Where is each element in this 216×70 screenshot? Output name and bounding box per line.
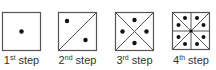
step-word: step <box>132 54 153 66</box>
step-4-label: 4th step <box>173 53 209 67</box>
dot <box>177 35 181 39</box>
dot <box>83 38 87 42</box>
dot <box>177 23 181 27</box>
dot <box>132 41 136 45</box>
step-word: step <box>76 54 97 66</box>
ordinal-suffix: th <box>179 54 185 61</box>
dot <box>132 18 136 22</box>
dot <box>120 29 124 33</box>
center-dot <box>189 29 192 32</box>
step-4-square <box>173 13 210 50</box>
ordinal-suffix: st <box>10 54 15 61</box>
ordinal-suffix: rd <box>123 54 129 61</box>
step-word: step <box>188 54 209 66</box>
dot <box>195 42 199 46</box>
dot <box>183 42 187 46</box>
dot <box>202 35 206 39</box>
dot <box>65 19 69 23</box>
step-2-square <box>59 13 97 51</box>
ordinal-suffix: nd <box>65 54 73 61</box>
dot <box>144 29 148 33</box>
step-1-label: 1st step <box>4 53 39 67</box>
dot <box>183 16 187 20</box>
step-word: step <box>18 54 39 66</box>
diagonal-line <box>59 13 97 51</box>
dot <box>195 16 199 20</box>
step-1-square <box>3 13 41 51</box>
step-3-square <box>116 13 154 51</box>
dot <box>202 23 206 27</box>
step-2-label: 2nd step <box>59 53 97 67</box>
step-3-label: 3rd step <box>116 53 152 67</box>
dot <box>19 29 23 33</box>
